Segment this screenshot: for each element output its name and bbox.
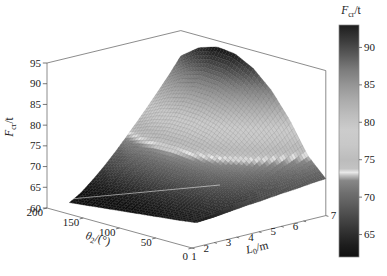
surface-plot-canvas: 6065707580859095Fcr/t200150100500θ2/(°)1… <box>0 0 387 276</box>
x-tick-label: 4 <box>248 231 254 243</box>
z-tick-label: 80 <box>30 119 42 131</box>
colorbar-tick-label: 65 <box>364 228 376 240</box>
x-tick-label: 6 <box>293 220 299 232</box>
theta-tick-label: 150 <box>63 216 80 228</box>
z-tick-label: 90 <box>30 77 42 89</box>
z-tick-label: 85 <box>30 98 42 110</box>
x-tick-label: 7 <box>331 209 337 221</box>
z-tick-label: 75 <box>30 139 42 151</box>
z-tick-label: 70 <box>30 160 42 172</box>
colorbar-gradient <box>339 25 359 257</box>
colorbar-tick-label: 75 <box>364 153 376 165</box>
colorbar-tick-label: 70 <box>364 191 376 203</box>
colorbar-title: Fcr/t <box>340 4 361 19</box>
surface-3d-figure: 6065707580859095Fcr/t200150100500θ2/(°)1… <box>0 0 387 276</box>
z-tick-label: 95 <box>30 57 42 69</box>
theta-tick-label: 0 <box>183 250 189 262</box>
x-tick-label: 2 <box>204 242 210 254</box>
theta-tick-label: 50 <box>141 236 153 248</box>
z-tick-label: 65 <box>30 181 42 193</box>
svg-text:Fcr/t: Fcr/t <box>340 4 361 19</box>
x-tick-label: 5 <box>270 225 276 237</box>
z-axis-title: Fcr/t <box>3 116 18 137</box>
x-tick-label: 1 <box>191 250 197 262</box>
colorbar-tick-label: 90 <box>364 41 376 53</box>
surface-mesh <box>69 47 326 223</box>
colorbar-tick-label: 80 <box>364 116 376 128</box>
svg-text:Fcr/t: Fcr/t <box>3 116 18 137</box>
colorbar: 908580757065 <box>339 25 376 257</box>
colorbar-tick-label: 85 <box>364 78 376 90</box>
x-tick-label: 3 <box>226 236 232 248</box>
theta-tick-label: 200 <box>27 206 44 218</box>
z-axis: 6065707580859095 <box>30 57 47 214</box>
